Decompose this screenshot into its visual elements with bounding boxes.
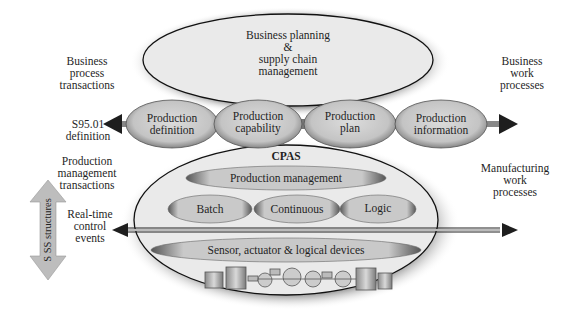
logic-label: Logic — [350, 202, 406, 214]
structures-label: S SS structures — [42, 198, 53, 262]
production-management-transactions-label: Production management transactions — [52, 155, 122, 191]
business-process-transactions-label: Business process transactions — [52, 55, 122, 91]
business-work-processes-label: Business work processes — [492, 55, 552, 91]
batch-label: Batch — [180, 203, 240, 215]
continuous-label: Continuous — [262, 203, 332, 215]
production-definition-label: Production definition — [132, 112, 212, 136]
production-information-label: Production information — [401, 112, 481, 136]
production-plan-label: Production plan — [310, 110, 390, 134]
manufacturing-work-processes-label: Manufacturing work processes — [470, 162, 560, 198]
real-time-control-events-label: Real-time control events — [62, 208, 118, 244]
production-management-label: Production management — [206, 172, 366, 184]
cpas-title: CPAS — [256, 150, 316, 162]
sensor-actuator-label: Sensor, actuator & logical devices — [186, 244, 386, 256]
structures-double-arrow: S SS structures — [30, 180, 66, 280]
business-planning-label: Business planning & supply chain managem… — [228, 29, 348, 77]
production-capability-label: Production capability — [218, 110, 298, 134]
s95-definition-label: S95.01 definition — [60, 118, 116, 142]
